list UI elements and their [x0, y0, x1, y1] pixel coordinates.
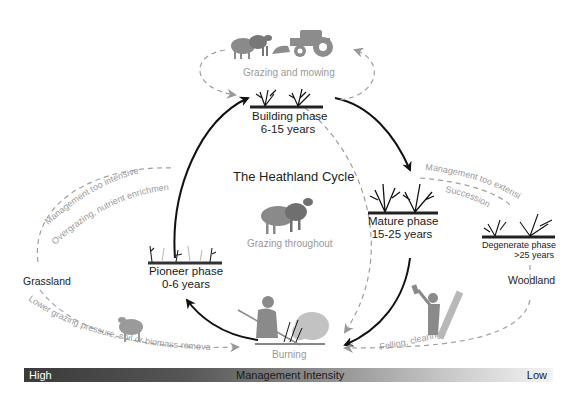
label-grassland: Grassland: [23, 275, 71, 287]
arrow-building-to-mature: [335, 98, 410, 170]
intensity-high-label: High: [29, 368, 52, 382]
pioneer-phase-name: Pioneer phase: [146, 265, 226, 278]
building-phase-years: 6-15 years: [252, 123, 324, 136]
building-phase-name: Building phase: [252, 110, 324, 123]
fire-smoke-icon: [284, 312, 329, 342]
sheep-icon: [231, 35, 272, 59]
management-intensity-bar: High Management Intensity Low: [24, 368, 553, 382]
heather-shrub-icon: [148, 246, 222, 263]
heather-shrub-icon: [482, 214, 555, 237]
label-burning: Burning: [272, 349, 306, 361]
degenerate-phase-years: >25 years: [482, 250, 554, 260]
label-grazing-mowing: Grazing and mowing: [243, 67, 335, 79]
diagram-graphics: Management too intensive Overgrazing, nu…: [0, 0, 576, 403]
mature-phase: Mature phase 15-25 years: [368, 215, 436, 241]
arrow-building-to-burning-dashed: [305, 108, 371, 332]
label-overgrazing: Overgrazing, nutrient enrichment: [0, 0, 169, 246]
arrow-grazing-mowing-right: [340, 50, 374, 100]
mature-phase-name: Mature phase: [368, 215, 436, 228]
building-phase: Building phase 6-15 years: [252, 110, 324, 136]
intensity-low-label: Low: [527, 368, 547, 382]
lumberjack-axe-icon: [411, 284, 460, 338]
sheep-icon: [261, 198, 313, 234]
arrow-burning-to-pioneer: [187, 300, 258, 340]
degenerate-phase: Degenerate phase >25 years: [482, 240, 554, 261]
diagram-title: The Heathland Cycle: [233, 170, 354, 185]
label-woodland: Woodland: [508, 274, 555, 286]
label-lower-grazing: Lower grazing pressure, soil or biomass …: [0, 0, 211, 352]
label-succession: Succession: [445, 184, 492, 209]
pioneer-phase-years: 0-6 years: [146, 278, 226, 291]
tractor-icon: [272, 30, 333, 57]
mature-phase-years: 15-25 years: [368, 228, 436, 241]
arrow-mature-to-burning: [345, 258, 410, 345]
heathland-cycle-diagram: Management too intensive Overgrazing, nu…: [0, 0, 576, 403]
intensity-title: Management Intensity: [236, 368, 344, 382]
arrow-grazing-mowing-left: [200, 50, 235, 95]
label-grazing-throughout: Grazing throughout: [247, 238, 333, 250]
heather-shrub-icon: [250, 89, 323, 107]
heather-shrub-icon: [368, 184, 438, 213]
degenerate-phase-name: Degenerate phase: [482, 240, 554, 250]
pioneer-phase: Pioneer phase 0-6 years: [146, 265, 226, 291]
